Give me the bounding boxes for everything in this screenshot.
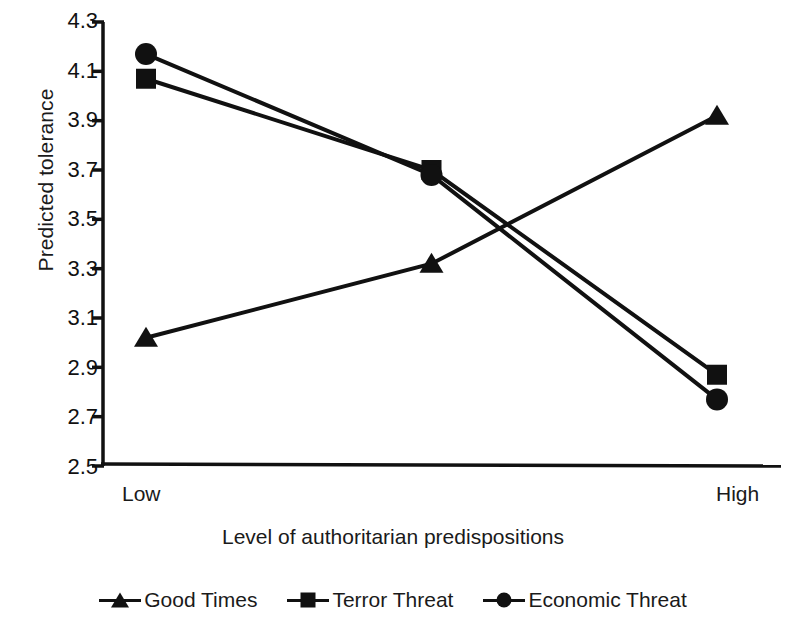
legend-label: Good Times — [144, 588, 257, 612]
triangle-marker-icon — [705, 105, 729, 125]
series-layer — [134, 43, 729, 410]
legend-label: Economic Threat — [528, 588, 686, 612]
chart-legend: Good Times Terror Threat Economic Threat — [0, 588, 786, 612]
series-line-good-times — [146, 116, 717, 338]
x-tick-label-low: Low — [122, 482, 161, 506]
x-axis-spine — [101, 464, 781, 466]
legend-item-terror-threat[interactable]: Terror Threat — [287, 588, 453, 612]
triangle-marker-icon — [420, 253, 444, 273]
square-marker-icon — [287, 590, 329, 610]
circle-marker-icon — [483, 590, 525, 610]
circle-marker-icon — [135, 43, 157, 65]
circle-marker-icon — [706, 388, 728, 410]
square-marker-icon — [707, 365, 727, 385]
legend-label: Terror Threat — [332, 588, 453, 612]
x-tick-label-high: High — [716, 482, 759, 506]
legend-item-good-times[interactable]: Good Times — [99, 588, 257, 612]
x-axis-title: Level of authoritarian predispositions — [0, 525, 786, 549]
chart-figure: Predicted tolerance 4.3 4.1 3.9 3.7 3.5 … — [0, 0, 786, 638]
legend-item-economic-threat[interactable]: Economic Threat — [483, 588, 686, 612]
square-marker-icon — [136, 69, 156, 89]
circle-marker-icon — [421, 164, 443, 186]
triangle-marker-icon — [99, 590, 141, 610]
